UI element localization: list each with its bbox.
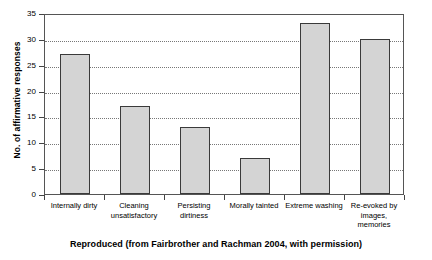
x-axis-label: Persistingdirtiness (163, 201, 225, 220)
plot-area (44, 14, 404, 195)
x-axis-label: Morally tainted (223, 201, 285, 211)
y-tick-label: 35 (0, 10, 36, 18)
x-tick-mark (224, 195, 225, 200)
x-label-line: memories (343, 220, 405, 230)
y-tick-label: 10 (0, 139, 36, 147)
bar-chart-figure: No. of affirmative responses 05101520253… (0, 0, 432, 260)
figure-caption: Reproduced (from Fairbrother and Rachman… (0, 239, 432, 249)
x-axis-label: Cleaningunsatisfactory (103, 201, 165, 220)
y-tick-label: 5 (0, 165, 36, 173)
bar (120, 106, 150, 194)
x-tick-mark (44, 195, 45, 200)
x-tick-mark (284, 195, 285, 200)
gridline (45, 170, 403, 171)
gridline (45, 118, 403, 119)
bar (60, 54, 90, 194)
x-tick-mark (164, 195, 165, 200)
y-tick-label: 20 (0, 88, 36, 96)
x-axis-label: Extreme washing (283, 201, 345, 211)
gridline (45, 67, 403, 68)
x-label-line: Persisting (163, 201, 225, 211)
bar (300, 23, 330, 194)
x-label-line: Cleaning (103, 201, 165, 211)
x-tick-mark (104, 195, 105, 200)
x-label-line: Extreme washing (283, 201, 345, 211)
gridline (45, 41, 403, 42)
y-tick-label: 30 (0, 36, 36, 44)
bar (360, 39, 390, 194)
gridline (45, 144, 403, 145)
gridline (45, 93, 403, 94)
y-tick-label: 15 (0, 113, 36, 121)
x-label-line: Internally dirty (43, 201, 105, 211)
x-axis-label: Re-evoked byimages,memories (343, 201, 405, 230)
bar (240, 158, 270, 194)
x-label-line: Re-evoked by (343, 201, 405, 211)
y-axis-title: No. of affirmative responses (12, 20, 22, 180)
bar (180, 127, 210, 194)
x-tick-mark (344, 195, 345, 200)
x-axis-label: Internally dirty (43, 201, 105, 211)
x-label-line: Morally tainted (223, 201, 285, 211)
x-label-line: dirtiness (163, 211, 225, 221)
y-tick-label: 0 (0, 191, 36, 199)
x-label-line: unsatisfactory (103, 211, 165, 221)
x-tick-mark (404, 195, 405, 200)
x-label-line: images, (343, 211, 405, 221)
y-tick-label: 25 (0, 62, 36, 70)
